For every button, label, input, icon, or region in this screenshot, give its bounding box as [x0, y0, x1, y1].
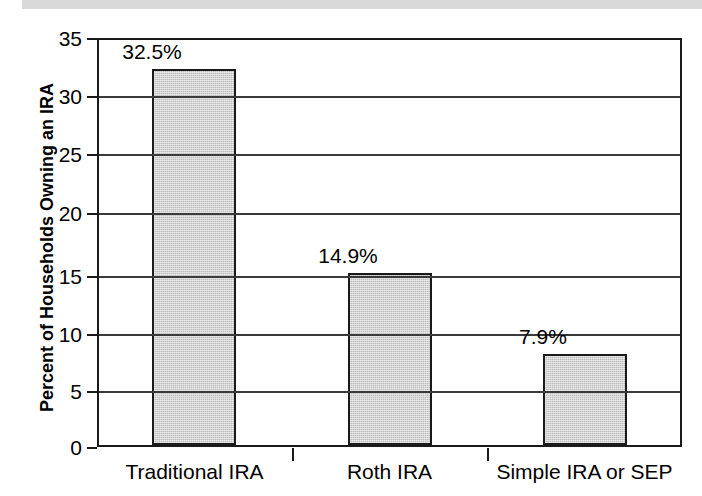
- plot-area: [97, 38, 682, 447]
- y-tick-label-0: 0: [34, 437, 82, 458]
- gridline-15: [99, 276, 680, 278]
- bar-traditional-ira: [152, 69, 236, 445]
- bar-value-roth-ira: 14.9%: [306, 245, 390, 266]
- y-tick-mark-20: [87, 213, 97, 215]
- bar-chart-figure: Percent of Households Owning an IRA 35 3…: [0, 0, 702, 496]
- y-tick-label-10: 10: [34, 324, 82, 345]
- x-tick-separator-2: [487, 448, 489, 461]
- y-tick-mark-15: [87, 276, 97, 278]
- x-axis-label-simple-ira-or-sep: Simple IRA or SEP: [487, 461, 682, 483]
- x-tick-separator-1: [292, 448, 294, 461]
- x-axis-label-roth-ira: Roth IRA: [292, 461, 487, 483]
- bar-value-traditional-ira: 32.5%: [110, 41, 194, 62]
- gridline-5: [99, 391, 680, 393]
- y-tick-mark-35: [87, 38, 97, 40]
- y-tick-mark-0: [87, 447, 97, 449]
- y-tick-mark-5: [87, 391, 97, 393]
- x-axis-label-traditional-ira: Traditional IRA: [97, 461, 292, 483]
- y-tick-mark-10: [87, 334, 97, 336]
- y-tick-label-20: 20: [34, 203, 82, 224]
- bar-value-simple-ira-or-sep: 7.9%: [501, 326, 585, 347]
- y-tick-label-25: 25: [34, 144, 82, 165]
- gridline-10: [99, 334, 680, 336]
- y-tick-label-35: 35: [34, 28, 82, 49]
- y-tick-label-30: 30: [34, 86, 82, 107]
- bar-simple-ira-or-sep: [543, 354, 627, 445]
- gridline-20: [99, 213, 680, 215]
- y-tick-mark-30: [87, 96, 97, 98]
- gridline-25: [99, 154, 680, 156]
- bar-roth-ira: [348, 273, 432, 445]
- y-tick-mark-25: [87, 154, 97, 156]
- y-tick-label-5: 5: [34, 381, 82, 402]
- y-tick-label-15: 15: [34, 266, 82, 287]
- gridline-30: [99, 96, 680, 98]
